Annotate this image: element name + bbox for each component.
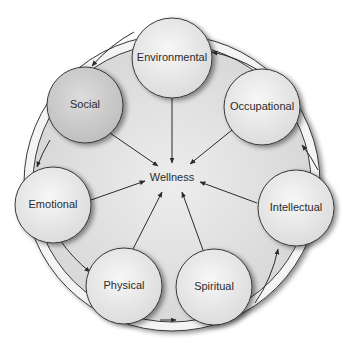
node-physical[interactable]: Physical (86, 248, 162, 324)
node-intellectual[interactable]: Intellectual (258, 170, 334, 246)
node-label: Social (70, 98, 100, 110)
node-label: Occupational (230, 100, 294, 112)
node-environmental[interactable]: Environmental (132, 18, 212, 98)
node-label: Physical (104, 279, 145, 291)
node-label: Emotional (29, 198, 78, 210)
node-label: Intellectual (270, 201, 323, 213)
node-label: Environmental (137, 51, 207, 63)
node-spiritual[interactable]: Spiritual (176, 249, 252, 325)
node-occupational[interactable]: Occupational (224, 69, 300, 145)
wellness-diagram: Wellness Environmental Occupational Inte… (0, 0, 345, 341)
node-social[interactable]: Social (47, 67, 123, 143)
node-emotional[interactable]: Emotional (15, 167, 91, 243)
node-label: Spiritual (194, 280, 234, 292)
center-label-wellness: Wellness (150, 171, 195, 183)
